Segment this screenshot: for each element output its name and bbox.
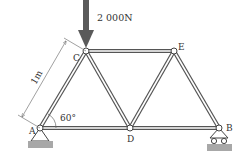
joint-D xyxy=(127,125,133,131)
node-label-D: D xyxy=(127,135,134,144)
node-label-B: B xyxy=(226,124,233,133)
load-label: 2 000N xyxy=(97,13,133,23)
joint-E xyxy=(171,48,177,54)
joint-B xyxy=(216,125,222,131)
node-label-A: A xyxy=(29,127,36,136)
node-label-C: C xyxy=(73,54,80,63)
angle-label: 60° xyxy=(60,114,76,123)
node-label-E: E xyxy=(178,43,185,52)
load-arrow-icon xyxy=(78,0,94,48)
truss-diagram: 2 000N C E A D B 60° 1m xyxy=(0,0,249,165)
